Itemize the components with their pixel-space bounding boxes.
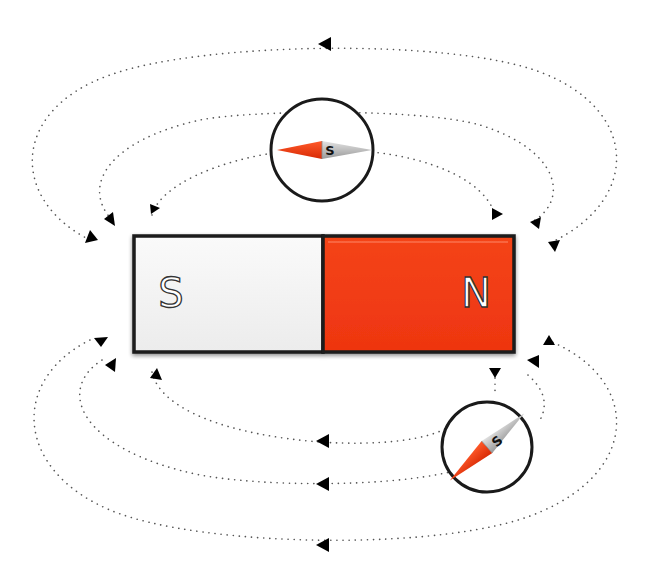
bar-magnet — [134, 236, 514, 352]
arrow-right-icon — [492, 208, 503, 220]
arrow-down-right-icon — [85, 230, 98, 243]
compass-top: S — [271, 99, 373, 201]
south-pole-label: S — [158, 270, 183, 316]
arrow-up-right-icon — [94, 337, 108, 347]
arrow-left-icon — [316, 434, 329, 448]
needle-south-label: S — [325, 143, 334, 158]
arrow-up-right-icon — [530, 217, 541, 229]
arrow-down-right-icon — [104, 212, 115, 226]
arrow-left-icon — [316, 477, 329, 491]
north-pole-label: N — [461, 270, 491, 316]
arrow-up-icon — [150, 368, 162, 380]
arrow-right-icon — [150, 204, 160, 214]
arrow-down-icon — [489, 368, 501, 378]
magnet-field-diagram: S N S S — [0, 0, 655, 577]
compass-bottom-right: S — [442, 402, 532, 492]
arrow-up-icon — [543, 335, 555, 345]
arrow-up-left-icon — [527, 355, 539, 368]
arrow-up-right-icon — [105, 358, 116, 372]
arrow-down-right-icon — [548, 240, 560, 252]
